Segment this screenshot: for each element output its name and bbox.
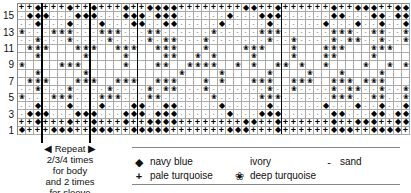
- chart-cell: [386, 110, 394, 118]
- chart-cell: [338, 78, 346, 86]
- chart-cell: [186, 127, 194, 135]
- chart-cell: [162, 29, 170, 37]
- chart-cell: [226, 94, 234, 102]
- chart-cell: [202, 61, 210, 69]
- chart-cell: [210, 61, 218, 69]
- chart-cell: [26, 61, 34, 69]
- chart-cell: [178, 127, 186, 135]
- chart-cell: [178, 29, 186, 37]
- chart-cell: [162, 119, 170, 127]
- chart-cell: [242, 53, 250, 61]
- chart-cell: [42, 29, 50, 37]
- chart-cell: [322, 94, 330, 102]
- chart-cell: [258, 110, 266, 118]
- chart-cell: [98, 127, 106, 135]
- chart-cell: [106, 12, 114, 20]
- chart-cell: [234, 53, 242, 61]
- legend-ivory: ivory: [232, 156, 271, 168]
- chart-cell: [314, 127, 322, 135]
- chart-cell: [202, 86, 210, 94]
- chart-cell: [114, 78, 122, 86]
- chart-cell: [226, 110, 234, 118]
- chart-cell: [306, 94, 314, 102]
- chart-cell: [194, 78, 202, 86]
- chart-cell: [26, 20, 34, 28]
- chart-cell: [394, 45, 402, 53]
- chart-cell: [378, 119, 386, 127]
- repeat-line-1: ◀ Repeat ▶: [30, 143, 110, 154]
- chart-cell: [154, 127, 162, 135]
- chart-cell: [378, 78, 386, 86]
- chart-cell: [226, 86, 234, 94]
- chart-cell: [242, 70, 250, 78]
- chart-cell: [202, 53, 210, 61]
- chart-cell: [138, 119, 146, 127]
- chart-cell: [74, 102, 82, 110]
- chart-cell: [258, 29, 266, 37]
- chart-cell: [98, 37, 106, 45]
- chart-cell: [226, 119, 234, 127]
- chart-cell: [186, 37, 194, 45]
- chart-cell: [122, 20, 130, 28]
- chart-cell: [362, 53, 370, 61]
- chart-cell: [202, 78, 210, 86]
- chart-cell: [178, 4, 186, 12]
- chart-cell: [290, 102, 298, 110]
- chart-cell: [282, 4, 290, 12]
- chart-cell: [138, 127, 146, 135]
- chart-cell: [50, 102, 58, 110]
- plus-icon: +: [132, 170, 146, 182]
- chart-cell: [42, 102, 50, 110]
- chart-cell: [162, 61, 170, 69]
- chart-cell: [154, 86, 162, 94]
- chart-cell: [250, 53, 258, 61]
- chart-cell: [394, 29, 402, 37]
- chart-cell: [226, 4, 234, 12]
- chart-cell: [186, 61, 194, 69]
- chart-cell: [330, 127, 338, 135]
- chart-cell: [386, 4, 394, 12]
- chart-cell: [106, 78, 114, 86]
- chart-cell: [162, 37, 170, 45]
- chart-cell: [26, 78, 34, 86]
- chart-cell: [378, 127, 386, 135]
- chart-cell: [378, 94, 386, 102]
- chart-cell: [314, 20, 322, 28]
- chart-cell: [18, 86, 26, 94]
- chart-cell: [122, 37, 130, 45]
- chart-cell: [242, 45, 250, 53]
- chart-cell: [298, 70, 306, 78]
- chart-cell: [74, 110, 82, 118]
- chart-cell: [106, 53, 114, 61]
- chart-grid: [17, 3, 410, 135]
- chart-cell: [394, 37, 402, 45]
- chart-cell: [194, 37, 202, 45]
- chart-cell: [218, 20, 226, 28]
- chart-cell: [226, 29, 234, 37]
- repeat-line-4: and 2 times: [30, 176, 110, 187]
- chart-cell: [50, 86, 58, 94]
- chart-cell: [170, 78, 178, 86]
- chart-cell: [250, 70, 258, 78]
- chart-cell: [178, 78, 186, 86]
- chart-cell: [50, 70, 58, 78]
- chart-cell: [58, 4, 66, 12]
- chart-cell: [210, 110, 218, 118]
- chart-cell: [146, 70, 154, 78]
- chart-cell: [138, 20, 146, 28]
- chart-cell: [58, 53, 66, 61]
- chart-cell: [370, 127, 378, 135]
- chart-cell: [194, 127, 202, 135]
- chart-cell: [258, 45, 266, 53]
- chart-cell: [250, 78, 258, 86]
- chart-cell: [170, 94, 178, 102]
- chart-cell: [90, 37, 98, 45]
- chart-cell: [258, 102, 266, 110]
- chart-cell: [122, 70, 130, 78]
- chart-cell: [138, 53, 146, 61]
- chart-cell: [234, 12, 242, 20]
- chart-cell: [338, 86, 346, 94]
- chart-cell: [346, 37, 354, 45]
- chart-cell: [402, 102, 410, 110]
- repeat-line-5: for sleeve: [30, 187, 110, 193]
